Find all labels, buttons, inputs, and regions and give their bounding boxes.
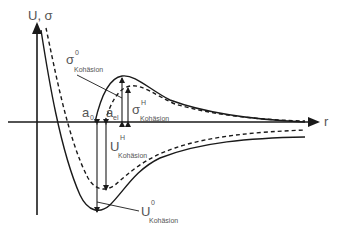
sigma0-label-sub: Kohäsion xyxy=(74,66,103,73)
y-axis-label: U, σ xyxy=(28,8,53,23)
diagram-canvas: U, σ r a 0 a el σ 0 Kohäsion σ H Kohäsio… xyxy=(0,0,350,233)
x-axis-label: r xyxy=(324,114,329,129)
U0-label-sub: Kohäsion xyxy=(149,217,178,224)
a0-label-sub: 0 xyxy=(90,114,94,121)
potential-U-solid-curve xyxy=(41,30,305,210)
U0-label-sup: 0 xyxy=(151,199,155,206)
sigmaH-label-sub: Kohäsion xyxy=(140,115,169,122)
a0-label-main: a xyxy=(82,105,90,120)
sigma0-label-main: σ xyxy=(66,52,74,67)
UH-label-sup: H xyxy=(120,134,125,141)
sigma0-label-sup: 0 xyxy=(75,49,79,56)
UH-label-sub: Kohäsion xyxy=(118,152,147,159)
sigmaH-label-sup: H xyxy=(141,99,146,106)
sigmaH-label-main: σ xyxy=(132,102,140,117)
a-el-label-sub: el xyxy=(113,114,119,121)
diagram-svg: U, σ r a 0 a el σ 0 Kohäsion σ H Kohäsio… xyxy=(0,0,350,233)
stress-sigma-solid-curve xyxy=(95,76,305,122)
